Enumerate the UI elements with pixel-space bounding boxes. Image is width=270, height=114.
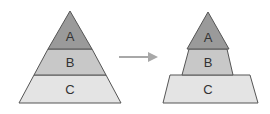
left-label-c: C	[65, 82, 74, 97]
right-label-c: C	[203, 82, 212, 97]
right-label-b: B	[204, 55, 213, 70]
arrow-right-icon	[119, 52, 158, 62]
left-label-b: B	[66, 55, 75, 70]
left-label-a: A	[66, 29, 75, 44]
left-pyramid: A B C	[19, 11, 121, 103]
right-pyramid: A B C	[163, 12, 258, 103]
pyramid-transformation-diagram: A B C A B C	[0, 0, 270, 114]
right-label-a: A	[204, 30, 213, 45]
